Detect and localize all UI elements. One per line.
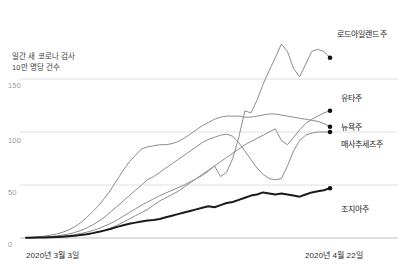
series-label-georgia: 조지아주 [341, 203, 369, 214]
series-label-utah: 유타주 [341, 92, 362, 103]
endpoint-dot-3 [328, 130, 333, 135]
series-label-new-york: 뉴욕주 [341, 121, 362, 132]
endpoint-dot-4 [328, 186, 333, 191]
y-axis-tick-150: 150 [8, 81, 21, 90]
y-axis-tick-50: 50 [8, 188, 17, 197]
endpoint-dot-2 [328, 124, 333, 129]
y-axis-tick-100: 100 [8, 136, 21, 145]
x-axis-tick-end: 2020년 4월 22일 [305, 249, 363, 260]
series-lines [26, 44, 330, 238]
y-axis-tick-0: 0 [8, 240, 12, 249]
series-label-massachusetts: 매사추세츠주 [341, 138, 384, 149]
endpoint-dot-1 [328, 109, 333, 114]
endpoint-dot-0 [328, 56, 333, 61]
series-label-rhode-island: 로드아일랜드주 [337, 28, 387, 39]
series-line-1 [26, 111, 330, 238]
series-endpoint-markers [328, 56, 333, 191]
chart-canvas [0, 0, 407, 271]
covid-testing-line-chart: 일간 새 코로나 검사 10만 명당 건수 150 100 50 0 2020년… [0, 0, 407, 271]
series-line-4 [26, 188, 330, 238]
y-axis-caption: 일간 새 코로나 검사 10만 명당 건수 [12, 52, 75, 73]
x-axis-tick-start: 2020년 3월 3일 [26, 249, 79, 260]
y-axis-caption-line-2: 10만 명당 건수 [12, 63, 75, 74]
y-axis-caption-line-1: 일간 새 코로나 검사 [12, 52, 75, 63]
series-line-0 [26, 44, 330, 238]
series-line-2 [26, 114, 330, 237]
